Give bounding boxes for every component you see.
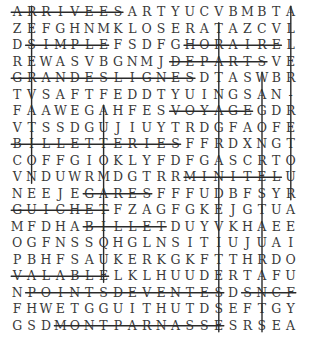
grid-cell[interactable]: S bbox=[197, 318, 211, 335]
grid-cell[interactable]: A bbox=[269, 235, 283, 252]
grid-cell[interactable]: F bbox=[10, 301, 24, 318]
grid-cell[interactable]: N bbox=[255, 285, 269, 302]
grid-cell[interactable]: E bbox=[168, 70, 182, 87]
grid-cell[interactable]: D bbox=[10, 37, 24, 54]
grid-cell[interactable]: J bbox=[240, 235, 254, 252]
grid-cell[interactable]: U bbox=[283, 169, 297, 186]
grid-cell[interactable]: E bbox=[96, 4, 110, 21]
grid-cell[interactable]: C bbox=[197, 4, 211, 21]
grid-cell[interactable]: E bbox=[96, 268, 110, 285]
grid-cell[interactable]: E bbox=[211, 318, 225, 335]
grid-cell[interactable]: G bbox=[82, 301, 96, 318]
grid-cell[interactable]: R bbox=[154, 169, 168, 186]
grid-cell[interactable]: I bbox=[211, 235, 225, 252]
grid-cell[interactable]: S bbox=[125, 37, 139, 54]
grid-cell[interactable]: A bbox=[125, 318, 139, 335]
grid-cell[interactable]: F bbox=[154, 37, 168, 54]
grid-cell[interactable]: K bbox=[111, 153, 125, 170]
grid-cell[interactable]: I bbox=[39, 202, 53, 219]
grid-cell[interactable]: E bbox=[168, 21, 182, 38]
grid-cell[interactable]: B bbox=[10, 136, 24, 153]
grid-cell[interactable]: N bbox=[255, 136, 269, 153]
grid-cell[interactable]: R bbox=[183, 21, 197, 38]
grid-cell[interactable]: O bbox=[68, 318, 82, 335]
grid-cell[interactable]: A bbox=[211, 103, 225, 120]
grid-cell[interactable]: S bbox=[183, 318, 197, 335]
grid-cell[interactable]: L bbox=[53, 136, 67, 153]
grid-cell[interactable]: R bbox=[283, 103, 297, 120]
grid-cell[interactable]: B bbox=[226, 186, 240, 203]
grid-cell[interactable]: F bbox=[10, 103, 24, 120]
grid-cell[interactable]: A bbox=[255, 268, 269, 285]
grid-cell[interactable]: I bbox=[39, 37, 53, 54]
grid-cell[interactable]: T bbox=[226, 252, 240, 269]
grid-cell[interactable]: A bbox=[96, 186, 110, 203]
grid-cell[interactable]: S bbox=[154, 103, 168, 120]
grid-cell[interactable]: N bbox=[269, 87, 283, 104]
grid-cell[interactable]: S bbox=[168, 136, 182, 153]
grid-cell[interactable]: E bbox=[68, 136, 82, 153]
grid-cell[interactable]: T bbox=[240, 169, 254, 186]
grid-cell[interactable]: M bbox=[183, 169, 197, 186]
grid-cell[interactable]: R bbox=[255, 252, 269, 269]
grid-cell[interactable]: O bbox=[10, 235, 24, 252]
grid-cell[interactable]: P bbox=[68, 37, 82, 54]
grid-cell[interactable]: D bbox=[168, 54, 182, 71]
grid-cell[interactable]: V bbox=[82, 54, 96, 71]
grid-cell[interactable]: I bbox=[53, 285, 67, 302]
grid-cell[interactable]: A bbox=[82, 252, 96, 269]
grid-cell[interactable]: G bbox=[125, 169, 139, 186]
grid-cell[interactable]: T bbox=[154, 219, 168, 236]
grid-cell[interactable]: S bbox=[226, 153, 240, 170]
grid-cell[interactable]: G bbox=[68, 153, 82, 170]
grid-cell[interactable]: F bbox=[53, 252, 67, 269]
grid-cell[interactable]: T bbox=[154, 87, 168, 104]
grid-cell[interactable]: S bbox=[68, 235, 82, 252]
grid-cell[interactable]: D bbox=[39, 318, 53, 335]
grid-cell[interactable]: H bbox=[111, 103, 125, 120]
grid-cell[interactable]: A bbox=[53, 54, 67, 71]
grid-cell[interactable]: T bbox=[255, 202, 269, 219]
grid-cell[interactable]: F bbox=[183, 136, 197, 153]
grid-cell[interactable]: T bbox=[82, 87, 96, 104]
grid-cell[interactable]: B bbox=[96, 54, 110, 71]
grid-cell[interactable]: V bbox=[68, 4, 82, 21]
grid-cell[interactable]: E bbox=[111, 136, 125, 153]
grid-cell[interactable]: F bbox=[53, 153, 67, 170]
grid-cell[interactable]: Y bbox=[197, 219, 211, 236]
grid-cell[interactable]: D bbox=[111, 285, 125, 302]
grid-cell[interactable]: O bbox=[283, 252, 297, 269]
grid-cell[interactable]: F bbox=[111, 37, 125, 54]
grid-cell[interactable]: R bbox=[255, 153, 269, 170]
grid-cell[interactable]: D bbox=[269, 252, 283, 269]
grid-cell[interactable]: A bbox=[24, 103, 38, 120]
grid-cell[interactable]: T bbox=[168, 120, 182, 137]
grid-cell[interactable]: R bbox=[283, 70, 297, 87]
grid-cell[interactable]: N bbox=[24, 169, 38, 186]
grid-cell[interactable]: E bbox=[24, 21, 38, 38]
grid-cell[interactable]: G bbox=[10, 318, 24, 335]
grid-cell[interactable]: K bbox=[197, 202, 211, 219]
grid-cell[interactable]: T bbox=[154, 4, 168, 21]
grid-cell[interactable]: S bbox=[140, 186, 154, 203]
grid-cell[interactable]: D bbox=[197, 268, 211, 285]
grid-cell[interactable]: S bbox=[211, 301, 225, 318]
grid-cell[interactable]: X bbox=[240, 136, 254, 153]
grid-cell[interactable]: M bbox=[53, 37, 67, 54]
grid-cell[interactable]: G bbox=[197, 153, 211, 170]
grid-cell[interactable]: P bbox=[10, 252, 24, 269]
grid-cell[interactable]: I bbox=[197, 169, 211, 186]
grid-cell[interactable]: E bbox=[140, 103, 154, 120]
grid-cell[interactable]: Z bbox=[125, 202, 139, 219]
grid-cell[interactable]: V bbox=[269, 54, 283, 71]
grid-cell[interactable]: A bbox=[140, 202, 154, 219]
grid-cell[interactable]: G bbox=[82, 186, 96, 203]
grid-cell[interactable]: D bbox=[140, 87, 154, 104]
grid-cell[interactable]: V bbox=[269, 21, 283, 38]
grid-cell[interactable]: A bbox=[283, 202, 297, 219]
grid-cell[interactable]: S bbox=[24, 37, 38, 54]
grid-cell[interactable]: A bbox=[53, 268, 67, 285]
grid-cell[interactable]: N bbox=[53, 70, 67, 87]
grid-cell[interactable]: G bbox=[96, 301, 110, 318]
grid-cell[interactable]: E bbox=[53, 301, 67, 318]
